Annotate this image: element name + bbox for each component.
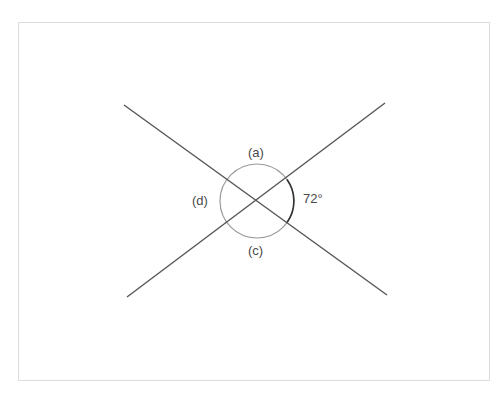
marked-angle-arc [287,180,294,223]
angle-label-c: (c) [248,244,263,257]
angle-label-d: (d) [192,194,208,207]
line-2 [127,103,385,297]
angle-label-a: (a) [248,146,264,159]
diagram-canvas [0,0,501,403]
angle-label-given: 72° [303,192,323,205]
